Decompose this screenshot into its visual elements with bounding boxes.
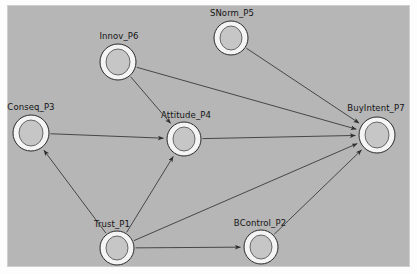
node-trust-p1[interactable] bbox=[100, 231, 134, 265]
node-snorm-p5[interactable] bbox=[214, 21, 248, 55]
node-label-p6: Innov_P6 bbox=[99, 31, 138, 41]
edge-trust-to-attitude bbox=[127, 156, 174, 232]
node-label-p5: SNorm_P5 bbox=[210, 8, 254, 18]
node-innov-p6[interactable] bbox=[100, 44, 136, 80]
edge-bcontrol-to-buyintent bbox=[274, 150, 361, 234]
node-conseq-p3[interactable] bbox=[13, 115, 49, 151]
node-inner-circle bbox=[106, 49, 130, 75]
edge-trust-to-bcontrol bbox=[135, 247, 240, 248]
node-label-p7: BuyIntent_P7 bbox=[347, 103, 404, 113]
node-buyintent-p7[interactable] bbox=[359, 117, 395, 153]
node-label-p1: Trust_P1 bbox=[94, 219, 130, 229]
node-bcontrol-p2[interactable] bbox=[244, 230, 278, 264]
edge-attitude-to-buyintent bbox=[202, 135, 355, 138]
edge-conseq-to-attitude bbox=[50, 134, 163, 138]
edges-layer bbox=[44, 48, 362, 248]
nodes-layer bbox=[13, 21, 395, 265]
node-inner-circle bbox=[173, 127, 195, 151]
node-inner-circle bbox=[250, 235, 272, 259]
node-inner-circle bbox=[365, 122, 389, 148]
node-label-p2: BControl_P2 bbox=[234, 218, 286, 228]
edge-snorm-to-buyintent bbox=[246, 48, 359, 123]
node-inner-circle bbox=[19, 120, 43, 146]
node-inner-circle bbox=[106, 236, 128, 260]
diagram-root: Conseq_P3Innov_P6SNorm_P5Attitude_P4BuyI… bbox=[0, 0, 417, 274]
node-label-p4: Attitude_P4 bbox=[161, 110, 211, 120]
node-attitude-p4[interactable] bbox=[167, 122, 201, 156]
node-label-p3: Conseq_P3 bbox=[7, 102, 54, 112]
graph-svg bbox=[0, 0, 417, 274]
node-inner-circle bbox=[220, 26, 242, 50]
